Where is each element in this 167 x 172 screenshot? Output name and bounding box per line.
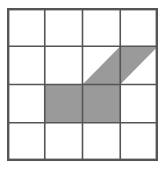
shaded-cell-row3-col3 xyxy=(83,85,121,123)
shaded-cell-row3-col2 xyxy=(45,85,83,123)
grid-svg xyxy=(7,8,158,161)
grid-figure xyxy=(7,8,158,161)
figure-canvas xyxy=(0,0,167,172)
